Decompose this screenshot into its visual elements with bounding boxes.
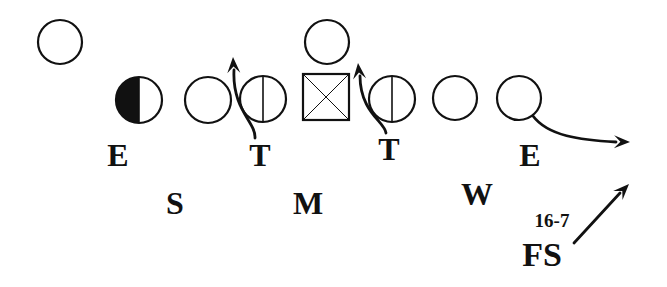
player-right-guard <box>369 76 415 122</box>
play-diagram: ETTESMWFS16-7 <box>0 0 667 287</box>
player-quarterback <box>305 20 349 64</box>
defender-label-left-end: E <box>107 137 128 173</box>
defender-label-middle-linebacker: M <box>293 185 323 221</box>
player-left-tackle <box>185 77 231 123</box>
figure-number: 16-7 <box>535 210 570 231</box>
route-arrows <box>227 57 630 243</box>
route-free-safety-move <box>574 184 629 243</box>
defense-labels: ETTESMWFS16-7 <box>107 131 570 273</box>
offense-formation <box>38 20 541 123</box>
defender-label-right-tackle: T <box>378 131 399 167</box>
player-wide-receiver <box>38 20 82 64</box>
player-right-tackle <box>433 76 477 120</box>
defender-label-left-tackle: T <box>249 137 270 173</box>
defender-label-weak-linebacker: W <box>461 176 493 212</box>
defender-label-free-safety: FS <box>522 236 562 273</box>
defender-label-strong-linebacker: S <box>166 185 184 221</box>
player-split-end <box>497 76 541 120</box>
player-center <box>303 74 349 120</box>
player-tight-end <box>116 77 162 123</box>
defender-label-right-end: E <box>519 137 540 173</box>
route-end-drop <box>533 116 630 148</box>
